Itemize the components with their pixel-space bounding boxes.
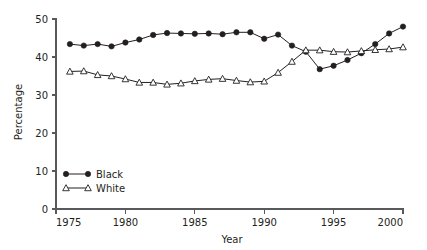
- x-tick-label: 1990: [251, 217, 276, 228]
- line-chart: 01020304050 197519801985199019952000 Bla…: [0, 0, 427, 250]
- data-point-black: [317, 66, 322, 71]
- y-tick-label: 40: [35, 52, 48, 63]
- y-tick-label: 30: [35, 90, 48, 101]
- x-tick-label: 1975: [56, 217, 81, 228]
- x-tick-label: 1980: [113, 217, 138, 228]
- legend-label: White: [96, 183, 125, 194]
- data-point-white: [400, 44, 407, 50]
- data-point-black: [81, 43, 86, 48]
- x-axis-ticks: 197519801985199019952000: [56, 209, 403, 228]
- data-point-black: [192, 31, 197, 36]
- series-black: [67, 24, 406, 72]
- series-white: [67, 44, 407, 87]
- legend-marker-end: [85, 171, 90, 176]
- y-tick-label: 10: [35, 166, 48, 177]
- data-point-black: [289, 43, 294, 48]
- x-tick-label: 1985: [182, 217, 207, 228]
- data-series-group: [67, 24, 407, 87]
- data-point-black: [150, 32, 155, 37]
- data-point-black: [248, 30, 253, 35]
- chart-container: 01020304050 197519801985199019952000 Bla…: [0, 0, 427, 250]
- legend-label: Black: [96, 169, 123, 180]
- legend-item-white: White: [63, 183, 125, 194]
- legend-item-black: Black: [63, 169, 123, 180]
- data-point-black: [220, 32, 225, 37]
- data-point-black: [206, 31, 211, 36]
- y-tick-label: 20: [35, 128, 48, 139]
- legend-marker-start: [63, 171, 68, 176]
- data-point-black: [67, 41, 72, 46]
- data-point-black: [345, 57, 350, 62]
- data-point-black: [95, 41, 100, 46]
- y-axis-title: Percentage: [13, 84, 24, 140]
- y-tick-label: 50: [35, 14, 48, 25]
- data-point-black: [234, 30, 239, 35]
- data-point-black: [386, 31, 391, 36]
- x-axis-title: Year: [220, 234, 243, 245]
- data-point-black: [262, 36, 267, 41]
- chart-legend: BlackWhite: [63, 169, 125, 194]
- data-point-black: [178, 31, 183, 36]
- data-point-black: [400, 24, 405, 29]
- x-tick-label: 1995: [321, 217, 346, 228]
- x-tick-label: 2000: [378, 217, 403, 228]
- data-point-black: [164, 30, 169, 35]
- axes: [56, 18, 404, 209]
- data-point-black: [137, 37, 142, 42]
- y-tick-label: 0: [42, 204, 48, 215]
- data-point-black: [123, 40, 128, 45]
- data-point-black: [109, 44, 114, 49]
- data-point-black: [275, 32, 280, 37]
- y-axis-ticks: 01020304050: [35, 14, 56, 215]
- data-point-black: [331, 63, 336, 68]
